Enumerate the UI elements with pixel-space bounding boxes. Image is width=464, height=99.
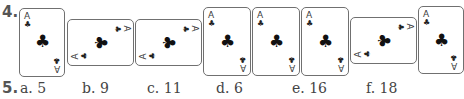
club-icon: ♣ [208,20,215,28]
club-icon: ♣ [35,33,50,50]
option-f[interactable]: f. 18 [366,80,397,96]
option-d[interactable]: d. 6 [216,80,243,96]
club-icon: ♣ [269,33,284,50]
card-rank: A [404,23,413,29]
club-icon: ♣ [375,33,392,48]
club-icon: ♣ [434,32,449,49]
option-e[interactable]: e. 16 [292,80,327,96]
club-icon: ♣ [450,53,457,61]
option-value: 16 [309,80,327,96]
card-rank: A [338,63,344,72]
option-c[interactable]: c. 11 [147,80,182,96]
option-label: a. [20,80,33,96]
card-rank: A [289,63,295,72]
option-value: 9 [100,80,109,96]
option-a[interactable]: a. 5 [20,80,46,96]
playing-card-7[interactable]: A ♣ ♣ ♣ A [350,17,417,64]
card-rank: A [139,53,148,59]
card-rank: A [54,64,60,73]
club-icon: ♣ [288,55,295,63]
club-icon: ♣ [423,19,430,27]
card-rank: A [354,51,363,57]
club-icon: ♣ [395,23,403,30]
club-icon: ♣ [364,50,372,57]
playing-card-4[interactable]: A ♣ ♣ ♣ A [203,7,251,76]
playing-card-5[interactable]: A ♣ ♣ ♣ A [252,7,300,76]
option-label: d. [216,80,229,96]
club-icon: ♣ [337,55,344,63]
playing-card-3[interactable]: A ♣ ♣ ♣ A [135,19,202,66]
club-icon: ♣ [239,55,246,63]
option-label: b. [82,80,95,96]
club-icon: ♣ [24,21,31,29]
club-icon: ♣ [180,25,188,32]
question-4-number: 4. [2,3,18,21]
card-rank: A [71,53,80,59]
card-rank: A [451,61,457,70]
option-b[interactable]: b. 9 [82,80,109,96]
club-icon: ♣ [257,20,264,28]
playing-card-6[interactable]: A ♣ ♣ ♣ A [301,7,349,76]
club-icon: ♣ [92,35,109,50]
option-value: 18 [380,80,398,96]
club-icon: ♣ [81,52,89,59]
club-icon: ♣ [112,25,120,32]
option-value: 6 [234,80,243,96]
playing-card-2[interactable]: A ♣ ♣ ♣ A [67,19,134,66]
card-rank: A [121,25,130,31]
club-icon: ♣ [318,33,333,50]
playing-card-1[interactable]: A ♣ ♣ ♣ A [19,8,65,77]
option-label: e. [292,80,305,96]
club-icon: ♣ [306,20,313,28]
question-5-number: 5. [2,79,18,97]
option-label: c. [147,80,159,96]
club-icon: ♣ [160,35,177,50]
option-value: 11 [164,80,182,96]
club-icon: ♣ [220,33,235,50]
club-icon: ♣ [53,56,60,64]
club-icon: ♣ [149,52,157,59]
option-value: 5 [37,80,46,96]
card-rank: A [240,63,246,72]
card-rank: A [189,25,198,31]
option-label: f. [366,80,375,96]
playing-card-8[interactable]: A ♣ ♣ ♣ A [418,6,464,74]
